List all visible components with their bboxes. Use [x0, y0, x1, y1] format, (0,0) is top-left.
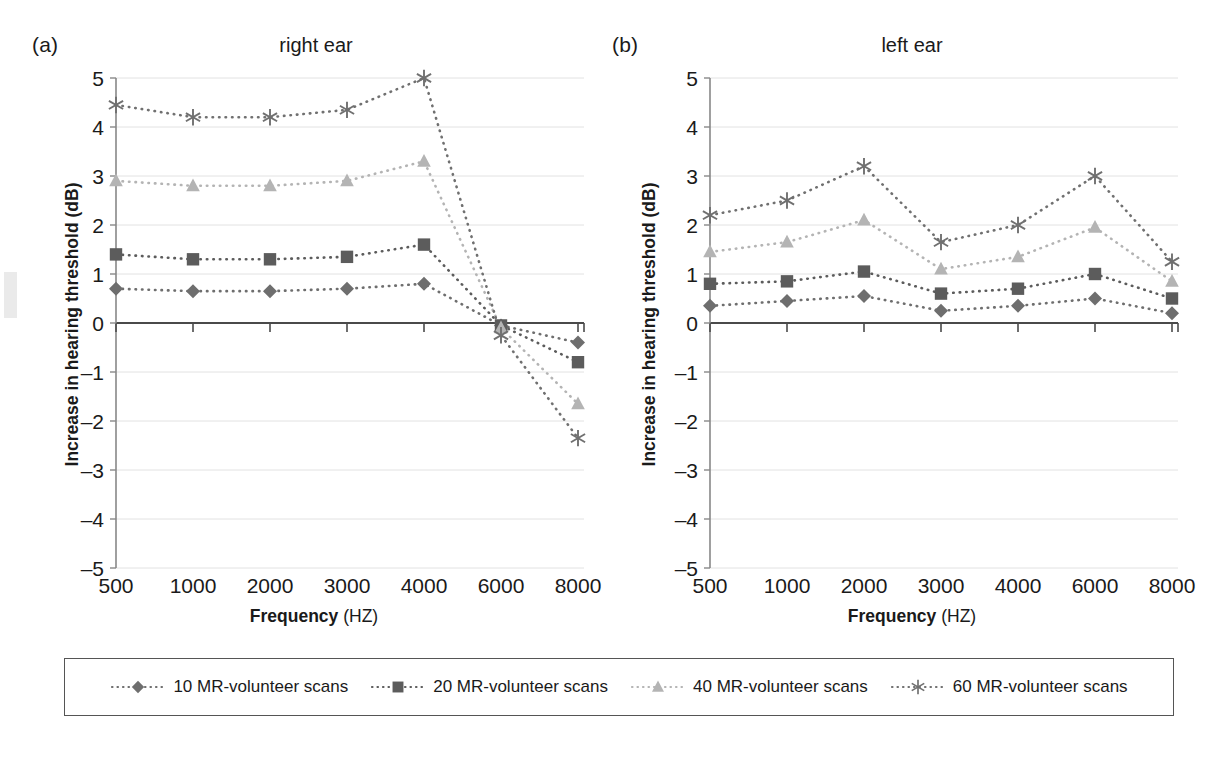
- y-tick-label: 4: [652, 117, 698, 138]
- y-tick-label: 4: [58, 117, 104, 138]
- y-tick-label: –5: [58, 558, 104, 579]
- x-axis-label: Frequency (HZ): [16, 606, 612, 627]
- x-tick-label: 8000: [555, 575, 602, 596]
- x-tick-label: 4000: [401, 575, 448, 596]
- x-axis-label-bold: Frequency: [250, 606, 339, 626]
- x-axis-label-unit: (HZ): [936, 606, 976, 626]
- x-tick-label: 2000: [841, 575, 888, 596]
- x-tick-label: 1000: [170, 575, 217, 596]
- y-tick-label: –2: [652, 411, 698, 432]
- legend-item[interactable]: 60 MR-volunteer scans: [890, 677, 1128, 697]
- x-tick-label: 8000: [1149, 575, 1196, 596]
- x-tick-label: 1000: [764, 575, 811, 596]
- y-tick-label: –4: [652, 509, 698, 530]
- legend-item[interactable]: 10 MR-volunteer scans: [110, 677, 348, 697]
- legend-label: 60 MR-volunteer scans: [953, 677, 1128, 697]
- x-tick-label: 3000: [918, 575, 965, 596]
- y-tick-label: 5: [652, 68, 698, 89]
- legend-marker-triangle-icon: [630, 679, 686, 695]
- x-axis-label: Frequency (HZ): [614, 606, 1210, 627]
- legend-item[interactable]: 40 MR-volunteer scans: [630, 677, 868, 697]
- y-tick-label: 0: [58, 313, 104, 334]
- x-tick-label: 6000: [1072, 575, 1119, 596]
- legend: 10 MR-volunteer scans20 MR-volunteer sca…: [64, 658, 1174, 716]
- legend-label: 10 MR-volunteer scans: [173, 677, 348, 697]
- y-tick-label: 2: [652, 215, 698, 236]
- x-tick-label: 4000: [995, 575, 1042, 596]
- legend-label: 40 MR-volunteer scans: [693, 677, 868, 697]
- legend-marker-diamond-icon: [110, 679, 166, 695]
- legend-marker-square-icon: [370, 679, 426, 695]
- x-tick-label: 3000: [324, 575, 371, 596]
- y-tick-label: –1: [58, 362, 104, 383]
- legend-item[interactable]: 20 MR-volunteer scans: [370, 677, 608, 697]
- x-tick-label: 2000: [247, 575, 294, 596]
- y-tick-label: 5: [58, 68, 104, 89]
- y-tick-label: –4: [58, 509, 104, 530]
- y-tick-label: –3: [58, 460, 104, 481]
- y-tick-label: –1: [652, 362, 698, 383]
- y-tick-label: –2: [58, 411, 104, 432]
- y-tick-label: 3: [58, 166, 104, 187]
- y-tick-label: –5: [652, 558, 698, 579]
- panel-left-ear: (b) left ear Increase in hearing thresho…: [600, 0, 1196, 650]
- x-axis-label-unit: (HZ): [338, 606, 378, 626]
- y-tick-label: –3: [652, 460, 698, 481]
- y-tick-label: 3: [652, 166, 698, 187]
- x-tick-label: 500: [692, 575, 727, 596]
- x-tick-label: 6000: [478, 575, 525, 596]
- x-tick-label: 500: [98, 575, 133, 596]
- y-tick-label: 1: [58, 264, 104, 285]
- y-tick-label: 2: [58, 215, 104, 236]
- y-tick-label: 0: [652, 313, 698, 334]
- legend-label: 20 MR-volunteer scans: [433, 677, 608, 697]
- legend-marker-asterisk-icon: [890, 679, 946, 695]
- y-tick-label: 1: [652, 264, 698, 285]
- panel-right-ear: (a) right ear Increase in hearing thresh…: [8, 0, 604, 650]
- x-axis-label-bold: Frequency: [848, 606, 937, 626]
